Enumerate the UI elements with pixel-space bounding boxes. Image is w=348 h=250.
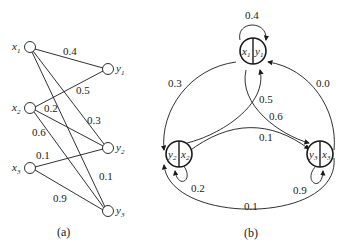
weight-x3-y2: 0.1 (36, 149, 50, 161)
edge-n1-n2 (164, 62, 236, 150)
edge-n3-n1 (268, 62, 334, 150)
label-x2: x2 (11, 101, 21, 116)
weight-x1-y1: 0.4 (63, 45, 77, 57)
node-x2 (25, 103, 36, 114)
weight-n2-self: 0.2 (191, 182, 205, 194)
label-y3: y3 (115, 204, 125, 219)
node-y2 (103, 143, 114, 154)
caption-b: (b) (244, 226, 258, 240)
weight-n3-n1: 0.0 (316, 77, 330, 89)
weight-n3-n2: 0.1 (244, 200, 258, 212)
node-y1 (103, 64, 114, 75)
weight-x2-y3: 0.6 (32, 126, 46, 138)
weight-x1-y3: 0.1 (99, 170, 113, 182)
diagram-canvas: x1 x2 x3 y1 y2 y3 0.4 0.5 0.2 0.3 0.6 0.… (0, 0, 348, 250)
label-x1: x1 (11, 40, 20, 55)
label-y2: y2 (115, 141, 125, 156)
edge-n2-n3 (188, 128, 309, 152)
weight-n1-self: 0.4 (245, 9, 259, 21)
node-x3 (25, 163, 36, 174)
weight-n2-n3: 0.1 (259, 131, 273, 143)
weight-n1-n2: 0.3 (168, 77, 182, 89)
weight-x1-y2: 0.3 (87, 114, 101, 126)
edge-x3-y3 (35, 170, 103, 210)
weight-x2-y2: 0.2 (44, 102, 58, 114)
weight-x2-y1: 0.5 (76, 84, 90, 96)
weight-x3-y3: 0.9 (53, 192, 67, 204)
node-x1 (25, 42, 36, 53)
label-y1: y1 (115, 62, 124, 77)
weight-n1-n3: 0.6 (269, 110, 283, 122)
weight-n3-self: 0.9 (293, 184, 307, 196)
label-x3: x3 (11, 161, 21, 176)
caption-a: (a) (57, 225, 70, 239)
node-y3 (103, 206, 114, 217)
weight-n2-n1: 0.5 (259, 93, 273, 105)
